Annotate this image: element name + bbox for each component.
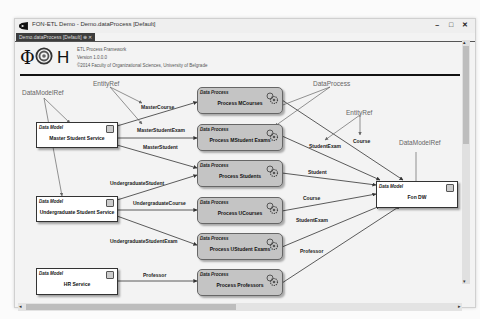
node-kind: Data Model [39, 271, 63, 276]
database-icon [106, 199, 114, 207]
edge-label-mastercourse: MasterCourse [141, 104, 174, 110]
node-kind: Data Model [39, 125, 63, 130]
data-process-mcourses[interactable]: Data Process Process MCourses [197, 87, 283, 114]
node-name: Undergraduate Student Service [37, 209, 117, 215]
node-kind: Data Process [200, 236, 229, 241]
vertical-scrollbar[interactable]: ▴ ▾ [462, 40, 470, 284]
node-kind: Data Process [200, 127, 229, 132]
gear-icon [265, 237, 279, 251]
data-process-students[interactable]: Data Process Process Students [197, 160, 283, 187]
node-kind: Data Process [200, 272, 229, 277]
edge-label-professor-in: Professor [143, 272, 166, 278]
node-kind: Data Model [39, 199, 63, 204]
edge-label-studentexam: StudentExam [296, 217, 328, 223]
data-process-ucourses[interactable]: Data Process Process UCourses [197, 197, 283, 224]
node-name: HR Service [37, 281, 117, 287]
scroll-up-button[interactable]: ▴ [463, 39, 466, 45]
scroll-right-button[interactable]: ▸ [458, 303, 461, 309]
edge-label-studentexam-top: StudentExam [309, 143, 341, 149]
data-model-master-student-service[interactable]: Data Model Master Student Service [36, 122, 118, 148]
vertical-scroll-thumb[interactable] [463, 46, 469, 144]
node-kind: Data Process [200, 90, 229, 95]
edge-label-student: Student [308, 169, 327, 175]
database-icon [446, 184, 454, 192]
node-kind: Data Model [379, 184, 403, 189]
gear-icon [265, 128, 279, 142]
edge-label-professor-out: Professor [300, 248, 323, 254]
annotation-datamodelref-left: DataModelRef [22, 89, 64, 96]
gear-icon [265, 164, 279, 178]
data-model-undergraduate-student-service[interactable]: Data Model Undergraduate Student Service [36, 196, 118, 222]
edge-label-masterstudentexam: MasterStudentExam [137, 127, 185, 133]
edge-label-undergraduatecourse: UndergraduateCourse [133, 200, 186, 206]
annotation-entityref-right: EntityRef [346, 109, 372, 116]
gear-icon [265, 273, 279, 287]
scroll-left-button[interactable]: ◂ [19, 303, 22, 309]
database-icon [106, 271, 114, 279]
edge-label-course: Course [303, 195, 320, 201]
node-name: Fon DW [377, 194, 457, 200]
node-name: Master Student Service [37, 135, 117, 141]
edge-label-undergraduatestudentexam: UndergraduateStudentExam [110, 238, 178, 244]
data-model-hr-service[interactable]: Data Model HR Service [36, 268, 118, 295]
node-kind: Data Process [200, 200, 229, 205]
edge-label-undergraduatestudent: UndergraduateStudent [110, 180, 164, 186]
annotation-entityref-top: EntityRef [93, 80, 119, 87]
node-kind: Data Process [200, 163, 229, 168]
annotation-dataprocess-top: DataProcess [313, 80, 350, 87]
edge-label-masterstudent: MasterStudent [143, 144, 178, 150]
scroll-down-button[interactable]: ▾ [463, 278, 466, 284]
database-icon [106, 125, 114, 133]
horizontal-scrollbar[interactable]: ◂ ▸ [18, 303, 462, 311]
data-model-fon-dw[interactable]: Data Model Fon DW [376, 181, 458, 208]
data-process-ustudent-exams[interactable]: Data Process Process UStudent Exams [197, 233, 283, 260]
gear-icon [265, 91, 279, 105]
annotation-datamodelref-right: DataModelRef [399, 139, 441, 146]
data-process-professors[interactable]: Data Process Process Professors [197, 269, 283, 296]
data-process-mstudent-exams[interactable]: Data Process Process MStudent Exams [197, 124, 283, 151]
horizontal-scroll-thumb[interactable] [26, 304, 236, 310]
gear-icon [265, 201, 279, 215]
edge-label-course-top: Course [353, 138, 370, 144]
